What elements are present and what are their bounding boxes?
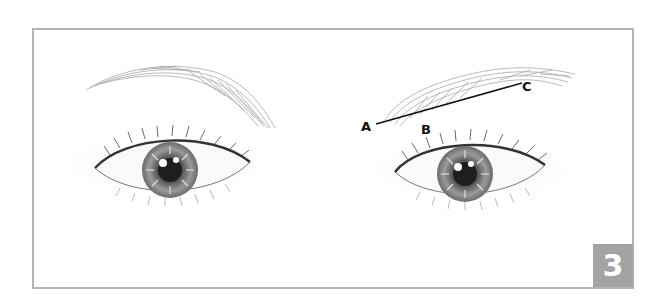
left-eyebrow	[86, 66, 275, 128]
label-a: A	[361, 120, 371, 133]
step-number: 3	[603, 251, 624, 281]
label-c: C	[522, 80, 532, 93]
step-number-badge: 3	[593, 244, 633, 287]
guide-line-a-c	[376, 83, 522, 124]
label-b: B	[421, 123, 431, 136]
eyes-illustration	[0, 0, 665, 298]
right-eyebrow	[385, 68, 575, 126]
